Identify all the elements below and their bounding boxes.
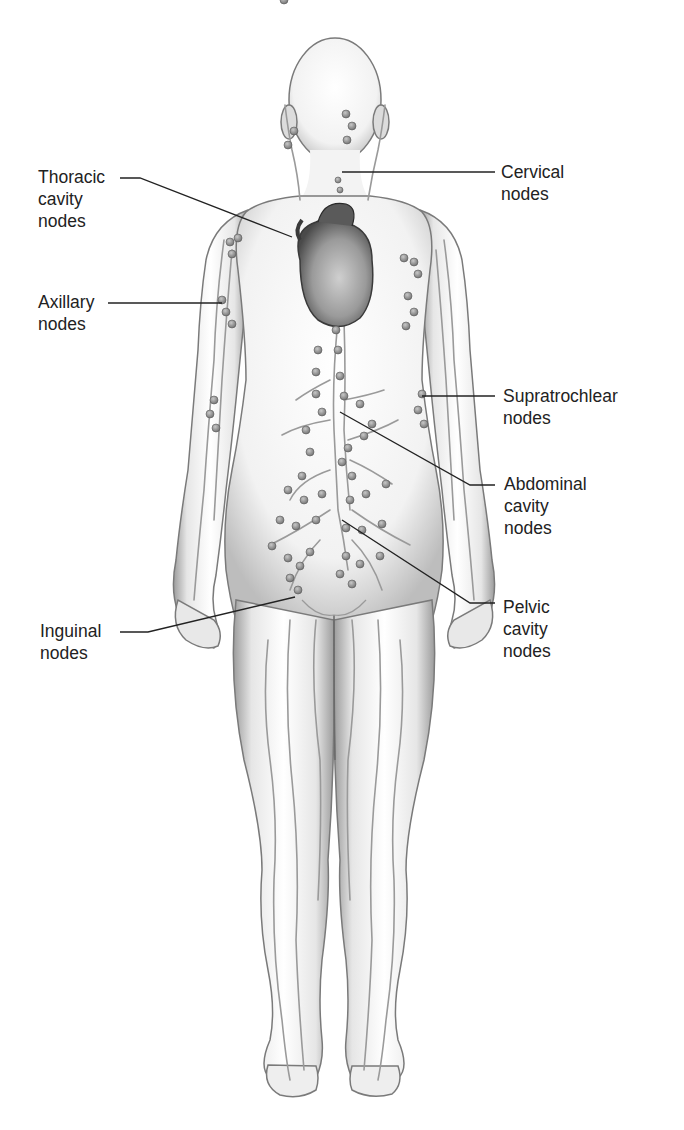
label-cervical-nodes: Cervical nodes (501, 161, 564, 205)
label-axillary-nodes: Axillary nodes (38, 291, 94, 335)
body-silhouette (173, 38, 494, 1097)
right-leg (233, 600, 334, 1083)
neck (300, 150, 370, 200)
label-abdominal-cavity-nodes: Abdominal cavity nodes (504, 473, 587, 539)
left-leg (334, 600, 435, 1083)
head (289, 38, 381, 162)
left-foot (350, 1066, 400, 1096)
right-foot (267, 1065, 319, 1097)
label-supratrochlear-nodes: Supratrochlear nodes (503, 385, 618, 429)
label-pelvic-cavity-nodes: Pelvic cavity nodes (503, 596, 551, 662)
label-inguinal-nodes: Inguinal nodes (40, 620, 101, 664)
label-thoracic-cavity-nodes: Thoracic cavity nodes (38, 166, 105, 232)
